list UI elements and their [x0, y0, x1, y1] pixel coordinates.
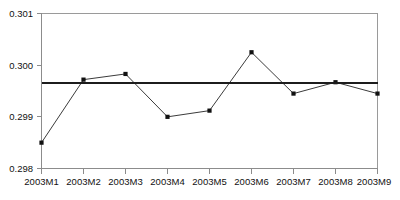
x-tick-label-m4: 2003M4	[150, 176, 184, 187]
x-tick-label-m7: 2003M7	[276, 176, 310, 187]
line-chart: 0.301 0.300 0.299 0.298 2003M1 2003M2 20…	[0, 0, 400, 200]
x-tick-label-m1: 2003M1	[24, 176, 58, 187]
x-tick-label-m6: 2003M6	[234, 176, 268, 187]
data-point-marker	[207, 109, 211, 113]
x-tick-label-m8: 2003M8	[318, 176, 352, 187]
data-point-marker	[291, 91, 295, 95]
data-point-marker	[123, 72, 127, 76]
x-tick-label-m3: 2003M3	[108, 176, 142, 187]
y-tick-label-0-300: 0.300	[9, 60, 33, 71]
x-tick-label-m5: 2003M5	[192, 176, 226, 187]
y-tick-label-0-301: 0.301	[9, 8, 33, 19]
x-tick-label-m9: 2003M9	[357, 176, 391, 187]
chart-background	[0, 0, 400, 200]
data-point-marker	[165, 115, 169, 119]
x-tick-label-m2: 2003M2	[66, 176, 100, 187]
data-point-marker	[39, 141, 43, 145]
data-point-marker	[375, 91, 379, 95]
data-point-marker	[81, 78, 85, 82]
chart-canvas: 0.301 0.300 0.299 0.298 2003M1 2003M2 20…	[0, 0, 400, 200]
y-tick-label-0-299: 0.299	[9, 111, 33, 122]
y-tick-label-0-298: 0.298	[9, 163, 33, 174]
data-point-marker	[249, 50, 253, 54]
